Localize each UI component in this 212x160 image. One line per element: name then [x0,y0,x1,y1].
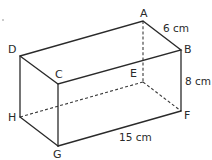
vertex-label-E: E [130,67,137,80]
vertex-label-D: D [8,43,16,56]
vertex-label-F: F [184,109,190,122]
edge-HG [20,117,58,146]
vertex-label-B: B [184,43,192,56]
vertex-label-H: H [8,111,16,124]
dimension-height: 8 cm [185,75,211,87]
edge-EH-hidden [20,82,143,117]
vertex-label-A: A [140,7,148,20]
vertex-label-C: C [55,68,63,81]
vertex-label-G: G [53,148,62,160]
stray-dot [2,19,4,21]
dimension-length: 15 cm [119,131,152,143]
edge-EF-hidden [143,82,181,111]
rectangular-prism-diagram: A B C D E F G H 6 cm 8 cm 15 cm [0,0,212,160]
dimension-depth: 6 cm [163,22,189,34]
top-face [20,21,181,84]
